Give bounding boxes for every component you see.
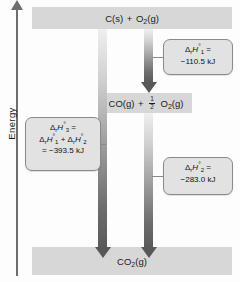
reaction-arrow-step-2 (144, 113, 153, 258)
arrow-head-icon (141, 82, 157, 93)
formula-part-o2: O2(g) (136, 13, 159, 24)
formula-plus: + (135, 98, 146, 109)
level-bar-intermediate: CO(g) + 1 2 O2(g) (100, 93, 192, 113)
arrow-shaft (144, 29, 153, 82)
arrow-head-icon (95, 247, 111, 258)
callout-enthalpy-overall: ΔrH°3 = ΔrH°1 + ΔrH°2 = −393.5 kJ (25, 117, 101, 171)
callout-1-value: −110.5 kJ (169, 56, 227, 68)
fraction-denominator: 2 (149, 103, 155, 111)
up-arrow-icon (11, 0, 23, 10)
callout-2-symbol-line: ΔrH°3 = (31, 122, 95, 134)
fraction-one-half: 1 2 (149, 96, 155, 110)
arrow-head-icon (141, 247, 157, 258)
energy-axis-label: Energy (6, 92, 17, 156)
formula-plus: + (124, 13, 135, 24)
callout-1-symbol-line: ΔrH°1 = (169, 44, 227, 56)
formula-part-co: CO(g) (109, 98, 135, 109)
callout-3-symbol-line: ΔrH°2 = (169, 162, 227, 174)
formula-part-o2: O2(g) (158, 98, 184, 109)
callout-enthalpy-step-1: ΔrH°1 = −110.5 kJ (163, 39, 233, 75)
callout-3-value: −283.0 kJ (169, 174, 227, 186)
formula-intermediate: CO(g) + 1 2 O2(g) (109, 96, 184, 110)
callout-enthalpy-step-2: ΔrH°2 = −283.0 kJ (163, 157, 233, 195)
callout-2-sum-line: ΔrH°1 + ΔrH°2 (31, 134, 95, 146)
arrow-shaft (144, 113, 153, 247)
callout-2-value: = −393.5 kJ (31, 145, 95, 157)
level-bar-products: CO2(g) (32, 247, 232, 275)
enthalpy-diagram: Energy C(s) + O2(g) CO(g) + 1 2 O2(g) CO… (0, 0, 240, 282)
level-bar-reactants: C(s) + O2(g) (32, 7, 232, 29)
formula-part-c: C(s) (105, 13, 123, 24)
formula-reactants: C(s) + O2(g) (105, 13, 159, 24)
reaction-arrow-step-1 (144, 29, 153, 93)
